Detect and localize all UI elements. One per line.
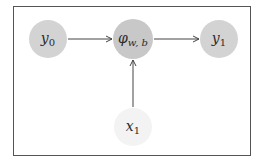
diagram-canvas	[0, 0, 266, 168]
node-label-y0: y0	[41, 31, 55, 48]
node-label-y1: y1	[212, 31, 226, 48]
node-label-phi: φw, b	[118, 31, 148, 48]
node-label-x1: x1	[126, 119, 140, 136]
